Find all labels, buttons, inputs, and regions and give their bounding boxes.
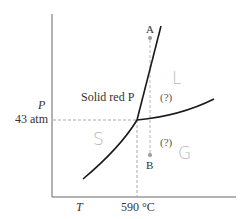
handwritten-liquid-mark: L — [172, 70, 181, 87]
point-a-label: A — [146, 24, 154, 35]
solid-gas-boundary — [83, 120, 137, 179]
point-b-label: B — [146, 160, 153, 171]
handwritten-solid-mark: S — [93, 131, 104, 148]
lower-unknown-region-label: (?) — [160, 137, 172, 148]
y-axis-tick-label: 43 atm — [15, 113, 48, 125]
x-axis-tick-label: 590 °C — [121, 201, 155, 213]
solid-region-label: Solid red P — [81, 91, 134, 103]
phase-diagram-canvas — [0, 0, 245, 219]
solid-liquid-boundary — [137, 26, 161, 120]
upper-unknown-region-label: (?) — [160, 92, 172, 103]
point-a-marker — [148, 36, 152, 40]
x-axis-label: T — [76, 201, 83, 213]
point-b-marker — [148, 153, 152, 157]
handwritten-gas-mark: G — [178, 145, 191, 162]
y-axis-label: P — [38, 99, 45, 111]
liquid-gas-boundary — [137, 99, 214, 120]
